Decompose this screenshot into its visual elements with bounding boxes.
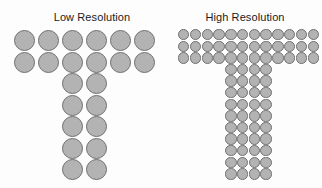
empty-cell (308, 133, 319, 144)
pixel-dot (249, 75, 260, 86)
empty-cell (178, 99, 189, 110)
empty-cell (38, 159, 59, 180)
dot-row (178, 168, 319, 180)
empty-cell (134, 95, 155, 116)
pixel-dot (249, 29, 260, 40)
empty-cell (178, 133, 189, 144)
empty-cell (213, 87, 224, 98)
pixel-dot (237, 110, 248, 121)
empty-cell (14, 116, 35, 137)
empty-cell (134, 138, 155, 159)
empty-cell (14, 95, 35, 116)
pixel-dot (225, 52, 236, 63)
pixel-dot (308, 52, 319, 63)
pixel-dot (14, 52, 35, 73)
pixel-dot (260, 168, 271, 179)
empty-cell (272, 99, 283, 110)
pixel-dot (202, 52, 213, 63)
empty-cell (38, 138, 59, 159)
pixel-dot (260, 64, 271, 75)
pixel-dot (272, 41, 283, 52)
pixel-dot (38, 30, 59, 51)
dot-row (14, 95, 158, 117)
pixel-dot (249, 41, 260, 52)
pixel-dot (134, 52, 155, 73)
pixel-dot (249, 52, 260, 63)
pixel-dot (260, 157, 271, 168)
pixel-dot (86, 116, 107, 137)
pixel-dot (213, 29, 224, 40)
empty-cell (308, 157, 319, 168)
pixel-dot (225, 110, 236, 121)
empty-cell (272, 133, 283, 144)
pixel-dot (237, 41, 248, 52)
dot-row (178, 41, 319, 53)
empty-cell (14, 138, 35, 159)
pixel-dot (260, 41, 271, 52)
empty-cell (178, 122, 189, 133)
empty-cell (308, 110, 319, 121)
empty-cell (202, 122, 213, 133)
pixel-dot (237, 145, 248, 156)
pixel-dot (62, 159, 83, 180)
pixel-dot (225, 29, 236, 40)
low-resolution-title: Low Resolution (0, 11, 176, 24)
pixel-dot (62, 52, 83, 73)
empty-cell (296, 110, 307, 121)
dot-row (178, 64, 319, 76)
low-resolution-dot-grid (14, 30, 158, 181)
pixel-dot (308, 29, 319, 40)
empty-cell (202, 64, 213, 75)
pixel-dot (308, 41, 319, 52)
pixel-dot (284, 52, 295, 63)
empty-cell (308, 64, 319, 75)
pixel-dot (296, 29, 307, 40)
pixel-dot (237, 29, 248, 40)
empty-cell (296, 87, 307, 98)
dot-row (14, 73, 158, 95)
dot-row (14, 138, 158, 160)
high-resolution-title: High Resolution (168, 11, 322, 24)
empty-cell (38, 116, 59, 137)
pixel-dot (249, 157, 260, 168)
pixel-dot (62, 116, 83, 137)
empty-cell (178, 110, 189, 121)
empty-cell (284, 64, 295, 75)
pixel-dot (296, 41, 307, 52)
pixel-dot (237, 133, 248, 144)
pixel-dot (134, 30, 155, 51)
empty-cell (296, 99, 307, 110)
empty-cell (178, 157, 189, 168)
pixel-dot (260, 29, 271, 40)
pixel-dot (86, 159, 107, 180)
pixel-dot (260, 122, 271, 133)
empty-cell (190, 122, 201, 133)
pixel-dot (110, 52, 131, 73)
empty-cell (296, 64, 307, 75)
pixel-dot (190, 52, 201, 63)
empty-cell (178, 87, 189, 98)
dot-row (178, 87, 319, 99)
empty-cell (308, 168, 319, 179)
empty-cell (213, 110, 224, 121)
pixel-dot (249, 168, 260, 179)
pixel-dot (249, 64, 260, 75)
empty-cell (190, 75, 201, 86)
pixel-dot (190, 41, 201, 52)
empty-cell (296, 122, 307, 133)
pixel-dot (202, 41, 213, 52)
dot-row (178, 133, 319, 145)
pixel-dot (225, 99, 236, 110)
pixel-dot (237, 122, 248, 133)
empty-cell (308, 87, 319, 98)
empty-cell (308, 75, 319, 86)
empty-cell (296, 133, 307, 144)
pixel-dot (225, 168, 236, 179)
empty-cell (190, 64, 201, 75)
empty-cell (308, 122, 319, 133)
empty-cell (178, 145, 189, 156)
pixel-dot (237, 75, 248, 86)
pixel-dot (260, 75, 271, 86)
empty-cell (178, 64, 189, 75)
pixel-dot (178, 29, 189, 40)
